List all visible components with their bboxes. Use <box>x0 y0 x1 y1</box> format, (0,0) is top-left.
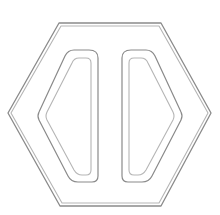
outer-hexagon-inner-outline <box>11 26 208 203</box>
hexagon-emblem-drawing <box>0 0 220 215</box>
right-pointed-shape-inner-outline <box>129 58 174 175</box>
drawing-canvas <box>0 0 220 215</box>
left-pointed-shape-inner-outline <box>46 58 91 175</box>
